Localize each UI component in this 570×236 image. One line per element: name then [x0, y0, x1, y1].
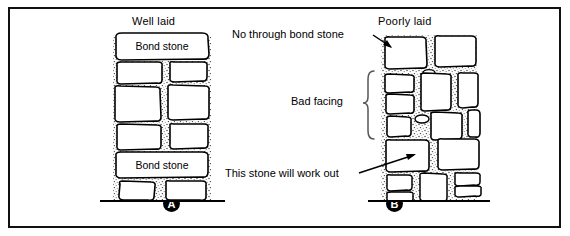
annotation-bad-facing: Bad facing: [291, 71, 374, 139]
stone-a-c4-left: [117, 124, 161, 150]
stone-b-facing-3: [387, 116, 411, 137]
stone-b-facing-1: [385, 74, 414, 93]
stone-a-c2-left: [117, 62, 162, 84]
stone-a-c6-left: [119, 181, 155, 200]
annotation-label-bad-facing: Bad facing: [291, 95, 343, 107]
stone-b-facing-2: [386, 94, 414, 114]
figure-stone-wall-comparison: Well laid Poorly laid A B: [0, 0, 570, 236]
stone-b-chip-2: [415, 115, 429, 123]
stone-a-c3-left: [115, 86, 161, 122]
stone-b-c6-left: [387, 175, 412, 191]
stone-b-c1-right: [435, 36, 476, 67]
stone-b-c5-right: [438, 139, 479, 170]
figure-border: Well laid Poorly laid A B: [8, 7, 561, 228]
wall-section-well-laid: Bond stone Bond stone: [100, 33, 225, 201]
stone-label-bond-bottom: Bond stone: [135, 159, 188, 171]
stone-a-c2-right: [170, 62, 207, 82]
wall-drawing: Bond stone Bond stone: [10, 9, 563, 230]
stone-a-c3-right: [168, 85, 209, 120]
stone-a-c6-right: [166, 181, 206, 200]
stone-b-c7-right: [455, 186, 481, 197]
stone-a-c4-right: [170, 124, 208, 149]
annotation-label-no-through-bond: No through bond stone: [232, 28, 344, 40]
stone-b-c6-mid: [420, 173, 447, 201]
stone-b-c7-left: [387, 192, 413, 201]
brace-bad-facing: [363, 71, 374, 139]
annotation-label-work-out: This stone will work out: [225, 167, 339, 179]
stone-b-c1-left: [385, 37, 427, 69]
stone-b-core-4: [468, 110, 480, 137]
stone-b-core-2: [458, 73, 478, 108]
stone-b-core-3: [431, 112, 462, 140]
stone-b-core-1: [421, 73, 451, 111]
annotation-no-through-bond-stone: No through bond stone: [232, 28, 392, 48]
wall-section-poorly-laid: [368, 35, 490, 201]
stone-label-bond-top: Bond stone: [135, 40, 188, 52]
stone-b-c6-right: [455, 173, 480, 186]
